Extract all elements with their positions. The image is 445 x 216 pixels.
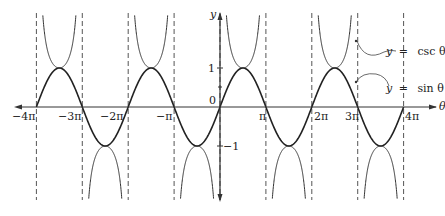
csc-label: y = csc θ xyxy=(385,45,445,58)
csc-branch xyxy=(89,146,122,199)
csc-branch xyxy=(272,146,305,199)
y-tick-label-1: 1 xyxy=(208,62,215,75)
x-tick-label-neg3pi: −3π xyxy=(58,110,81,123)
x-tick-label-3pi: 3π xyxy=(345,110,359,123)
csc-branch xyxy=(135,15,168,68)
x-tick-label-negpi: −π xyxy=(156,110,172,123)
csc-annotation-dot xyxy=(355,40,357,42)
csc-sin-chart: y θ 0 1 −1 −4π −3π −2π −π π 2π 3π 4π y =… xyxy=(0,0,445,216)
y-axis-up-arrow-icon xyxy=(218,12,223,20)
x-tick-label-4pi: 4π xyxy=(405,110,419,123)
x-axis-label: θ xyxy=(439,100,445,113)
x-tick-label-pi: π xyxy=(259,110,266,123)
csc-branch xyxy=(43,15,76,68)
x-tick-label-neg4pi: −4π xyxy=(12,110,35,123)
y-axis-label: y xyxy=(209,8,217,21)
x-tick-label-neg2pi: −2π xyxy=(100,110,123,123)
csc-branch xyxy=(226,15,259,68)
y-axis-down-arrow-icon xyxy=(218,194,223,202)
sin-annotation-leader xyxy=(356,74,389,86)
sin-annotation-dot xyxy=(355,81,357,83)
origin-label: 0 xyxy=(209,94,216,107)
sin-label: y = sin θ xyxy=(385,82,444,95)
y-tick-label-neg1: −1 xyxy=(223,140,239,153)
csc-branch xyxy=(181,146,214,199)
csc-branch xyxy=(364,146,397,199)
x-axis-right-arrow-icon xyxy=(429,105,437,110)
x-tick-label-2pi: 2π xyxy=(314,110,328,123)
x-axis-left-arrow-icon xyxy=(14,105,22,110)
csc-branch xyxy=(318,15,351,68)
